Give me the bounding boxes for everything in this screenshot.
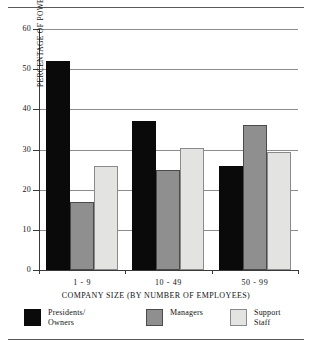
bar: [132, 121, 156, 270]
bar: [70, 202, 94, 270]
bar: [94, 166, 118, 270]
legend-swatch: [24, 309, 41, 326]
bar: [243, 125, 267, 270]
x-axis-baseline: [39, 270, 298, 271]
bottom-divider-rule: [8, 339, 304, 340]
chart-legend: Presidents/ OwnersManagersSupport Staff: [24, 308, 296, 334]
y-tick-label-10: 10: [9, 226, 31, 234]
bar: [46, 61, 70, 270]
x-axis-title: COMPANY SIZE (BY NUMBER OF EMPLOYEES): [0, 291, 312, 300]
bar: [180, 148, 204, 271]
y-tick-label-60: 60: [9, 25, 31, 33]
x-category-label: 10 - 49: [125, 278, 211, 287]
x-category-label: 1 - 9: [39, 278, 125, 287]
legend-swatch: [230, 309, 247, 326]
x-tick-mark: [298, 270, 299, 274]
y-tick-label-0: 0: [9, 266, 31, 274]
x-category-label: 50 - 99: [212, 278, 298, 287]
bar-group: [212, 29, 298, 270]
y-tick-label-30: 30: [9, 146, 31, 154]
x-tick-mark: [212, 270, 213, 274]
y-tick-label-50: 50: [9, 65, 31, 73]
plot-area: 0102030405060 1 - 910 - 4950 - 99 PERCEN…: [39, 29, 298, 270]
chart-figure: 0102030405060 1 - 910 - 4950 - 99 PERCEN…: [0, 0, 312, 348]
top-divider-rule: [8, 7, 304, 8]
legend-label: Presidents/ Owners: [48, 308, 85, 327]
bar-group: [39, 29, 125, 270]
legend-label: Support Staff: [254, 308, 281, 327]
y-tick-label-20: 20: [9, 186, 31, 194]
bar-group: [125, 29, 211, 270]
bar: [156, 170, 180, 270]
y-tick-label-40: 40: [9, 105, 31, 113]
legend-label: Managers: [170, 308, 203, 318]
bar: [219, 166, 243, 270]
y-axis-title: PERCENTAGE OF POWER TO PURCHASE: [37, 0, 45, 87]
x-tick-mark: [39, 270, 40, 274]
legend-swatch: [146, 309, 163, 326]
bar: [267, 152, 291, 271]
x-tick-mark: [125, 270, 126, 274]
